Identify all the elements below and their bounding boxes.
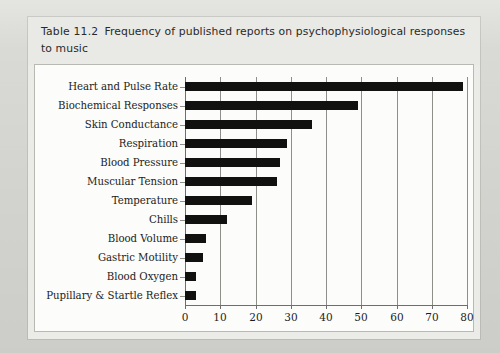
gridline-60 bbox=[397, 77, 398, 305]
chart-frame: Heart and Pulse RateBiochemical Response… bbox=[34, 64, 474, 332]
y-axis-label: Temperature bbox=[112, 191, 178, 210]
y-axis-tick bbox=[180, 258, 185, 259]
gridline-50 bbox=[361, 77, 362, 305]
gridline-80 bbox=[467, 77, 468, 305]
bar bbox=[185, 272, 196, 281]
y-axis-label: Pupillary & Startle Reflex bbox=[46, 286, 178, 305]
bar bbox=[185, 101, 358, 110]
chart-plot-wrapper: Heart and Pulse RateBiochemical Response… bbox=[35, 65, 473, 331]
x-axis-tick bbox=[361, 305, 362, 309]
gridline-0 bbox=[185, 77, 186, 305]
y-axis-tick bbox=[180, 201, 185, 202]
y-axis-tick bbox=[180, 182, 185, 183]
y-axis-tick bbox=[180, 87, 185, 88]
x-axis-tick-label: 50 bbox=[346, 311, 376, 323]
y-axis-label: Muscular Tension bbox=[87, 172, 178, 191]
bar bbox=[185, 253, 203, 262]
y-axis-label: Biochemical Responses bbox=[58, 96, 178, 115]
y-axis-tick bbox=[180, 296, 185, 297]
y-axis-labels: Heart and Pulse RateBiochemical Response… bbox=[35, 77, 184, 305]
plot-area bbox=[185, 77, 467, 305]
x-axis-tick bbox=[326, 305, 327, 309]
bar bbox=[185, 82, 463, 91]
x-axis-tick bbox=[432, 305, 433, 309]
y-axis-label: Blood Oxygen bbox=[107, 267, 178, 286]
x-axis-tick bbox=[397, 305, 398, 309]
x-axis-tick-label: 80 bbox=[452, 311, 482, 323]
figure-caption: Table 11.2Frequency of published reports… bbox=[41, 23, 466, 57]
y-axis-tick bbox=[180, 163, 185, 164]
y-axis-label: Skin Conductance bbox=[85, 115, 178, 134]
bar bbox=[185, 215, 227, 224]
gridline-40 bbox=[326, 77, 327, 305]
figure-caption-band: Table 11.2Frequency of published reports… bbox=[28, 17, 480, 65]
bar bbox=[185, 234, 206, 243]
x-axis-tick bbox=[291, 305, 292, 309]
x-axis-tick-label: 40 bbox=[311, 311, 341, 323]
y-axis-tick bbox=[180, 277, 185, 278]
y-axis-label: Blood Volume bbox=[108, 229, 178, 248]
bar bbox=[185, 196, 252, 205]
bar bbox=[185, 120, 312, 129]
x-axis-tick-label: 60 bbox=[382, 311, 412, 323]
y-axis-label: Chills bbox=[149, 210, 178, 229]
gridline-30 bbox=[291, 77, 292, 305]
x-axis-tick bbox=[467, 305, 468, 309]
y-axis-label: Respiration bbox=[119, 134, 178, 153]
gridline-10 bbox=[220, 77, 221, 305]
figure-caption-label: Table 11.2 bbox=[41, 25, 98, 38]
x-axis-tick-label: 0 bbox=[170, 311, 200, 323]
bar bbox=[185, 158, 280, 167]
y-axis-tick bbox=[180, 144, 185, 145]
x-axis-tick-label: 30 bbox=[276, 311, 306, 323]
gridline-70 bbox=[432, 77, 433, 305]
bar bbox=[185, 177, 277, 186]
x-axis-tick-label: 20 bbox=[241, 311, 271, 323]
bar bbox=[185, 139, 287, 148]
y-axis-tick bbox=[180, 106, 185, 107]
x-axis-tick bbox=[256, 305, 257, 309]
figure-card: Table 11.2Frequency of published reports… bbox=[28, 17, 480, 339]
y-axis-label: Gastric Motility bbox=[98, 248, 178, 267]
x-axis-tick bbox=[185, 305, 186, 309]
bar bbox=[185, 291, 196, 300]
x-axis-tick-label: 70 bbox=[417, 311, 447, 323]
y-axis-label: Heart and Pulse Rate bbox=[68, 77, 178, 96]
y-axis-tick bbox=[180, 220, 185, 221]
y-axis-tick bbox=[180, 125, 185, 126]
x-axis-tick bbox=[220, 305, 221, 309]
figure-caption-text: Frequency of published reports on psycho… bbox=[41, 25, 465, 55]
y-axis-tick bbox=[180, 239, 185, 240]
gridline-20 bbox=[256, 77, 257, 305]
y-axis-label: Blood Pressure bbox=[100, 153, 178, 172]
x-axis-tick-label: 10 bbox=[205, 311, 235, 323]
page-background: Table 11.2Frequency of published reports… bbox=[0, 0, 500, 353]
